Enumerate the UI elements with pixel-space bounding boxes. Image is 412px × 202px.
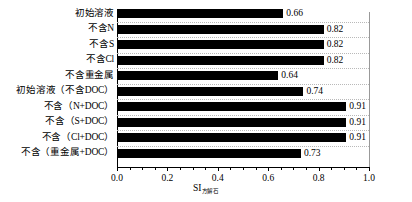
bar-rows: 初始溶液0.66不含N0.82不含S0.82不含Cl0.82不含重金属0.64初…	[0, 6, 412, 161]
x-tick-minor	[293, 167, 294, 170]
bar-track: 0.91	[117, 115, 369, 131]
x-tick-minor	[256, 167, 257, 170]
bar-track: 0.82	[117, 37, 369, 53]
category-label: 初始溶液	[0, 9, 117, 19]
x-axis-title-text: SI	[193, 183, 201, 193]
category-label: 不含S	[0, 40, 117, 50]
bar	[117, 133, 346, 142]
bar	[117, 9, 283, 18]
x-tick-minor	[356, 167, 357, 170]
x-tick-label: 0.4	[212, 173, 224, 183]
bar	[117, 87, 303, 96]
x-tick-minor	[344, 167, 345, 170]
bar-row: 不含重金属0.64	[0, 68, 412, 84]
x-tick-minor	[155, 167, 156, 170]
category-label: 不含（重金属+DOC）	[0, 148, 117, 158]
category-label: 不含（Cl+DOC）	[0, 133, 117, 143]
bar	[117, 102, 346, 111]
bar-track: 0.91	[117, 130, 369, 146]
bar	[117, 71, 278, 80]
bar-row: 不含S0.82	[0, 37, 412, 53]
bar	[117, 40, 324, 49]
bar-track: 0.91	[117, 99, 369, 115]
x-tick-major	[268, 167, 269, 171]
x-tick-label: 0.8	[313, 173, 325, 183]
bar	[117, 118, 346, 127]
x-axis-title-subscript: 方解石	[202, 188, 219, 194]
x-tick-major	[319, 167, 320, 171]
x-axis-title: SI方解石	[0, 183, 412, 195]
bar-row: 不含Cl0.82	[0, 53, 412, 69]
bar-track: 0.66	[117, 6, 369, 22]
bar-row: 不含（N+DOC）0.91	[0, 99, 412, 115]
x-tick-major	[117, 167, 118, 171]
x-tick-minor	[130, 167, 131, 170]
x-tick-minor	[230, 167, 231, 170]
x-tick-minor	[205, 167, 206, 170]
x-tick-minor	[193, 167, 194, 170]
category-label: 不含（S+DOC）	[0, 117, 117, 127]
bar-row: 不含（S+DOC）0.91	[0, 115, 412, 131]
bar-track: 0.64	[117, 68, 369, 84]
x-tick-minor	[281, 167, 282, 170]
bar-row: 初始溶液0.66	[0, 6, 412, 22]
category-label: 不含Cl	[0, 55, 117, 65]
x-tick-minor	[142, 167, 143, 170]
bar-value-label: 0.82	[327, 40, 344, 50]
x-tick-label: 0.0	[111, 173, 123, 183]
bar-value-label: 0.66	[286, 9, 303, 19]
bar	[117, 149, 301, 158]
category-label: 不含（N+DOC）	[0, 102, 117, 112]
bar-value-label: 0.82	[327, 25, 344, 35]
x-tick-label: 0.6	[262, 173, 274, 183]
x-tick-minor	[331, 167, 332, 170]
x-tick-label: 1.0	[363, 173, 375, 183]
bar-track: 0.82	[117, 22, 369, 38]
x-tick-major	[369, 167, 370, 171]
bar-value-label: 0.82	[327, 56, 344, 66]
x-tick-major	[218, 167, 219, 171]
category-label: 不含N	[0, 24, 117, 34]
bar-track: 0.82	[117, 53, 369, 69]
bar-row: 初始溶液（不含DOC）0.74	[0, 84, 412, 100]
x-tick-label: 0.2	[161, 173, 173, 183]
bar-chart: 初始溶液0.66不含N0.82不含S0.82不含Cl0.82不含重金属0.64初…	[0, 0, 412, 202]
bar-value-label: 0.91	[349, 102, 366, 112]
bar-value-label: 0.73	[304, 149, 321, 159]
bar-value-label: 0.91	[349, 118, 366, 128]
bar-value-label: 0.64	[281, 71, 298, 81]
bar	[117, 25, 324, 34]
bar-track: 0.74	[117, 84, 369, 100]
x-tick-minor	[306, 167, 307, 170]
bar-track: 0.73	[117, 146, 369, 162]
category-label: 不含重金属	[0, 71, 117, 81]
x-tick-minor	[180, 167, 181, 170]
bar	[117, 56, 324, 65]
x-tick-major	[167, 167, 168, 171]
bar-value-label: 0.74	[306, 87, 323, 97]
category-label: 初始溶液（不含DOC）	[0, 86, 117, 96]
bar-row: 不含N0.82	[0, 22, 412, 38]
bar-row: 不含（重金属+DOC）0.73	[0, 146, 412, 162]
plot-area: 初始溶液0.66不含N0.82不含S0.82不含Cl0.82不含重金属0.64初…	[0, 6, 412, 166]
x-tick-minor	[243, 167, 244, 170]
bar-row: 不含（Cl+DOC）0.91	[0, 130, 412, 146]
bar-value-label: 0.91	[349, 133, 366, 143]
